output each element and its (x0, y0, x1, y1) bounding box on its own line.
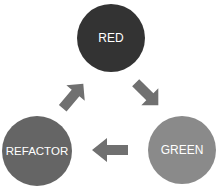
node-green-label: GREEN (161, 143, 204, 157)
arrow-green-to-refactor-icon (92, 138, 128, 162)
node-refactor: REFACTOR (2, 116, 72, 186)
arrow-refactor-to-red-icon (54, 76, 93, 116)
node-green: GREEN (148, 116, 216, 184)
arrow-red-to-green-icon (127, 74, 167, 114)
node-red-label: RED (98, 31, 124, 45)
node-red: RED (77, 4, 145, 72)
tdd-cycle-diagram: RED GREEN REFACTOR (0, 0, 222, 190)
node-refactor-label: REFACTOR (6, 145, 68, 157)
